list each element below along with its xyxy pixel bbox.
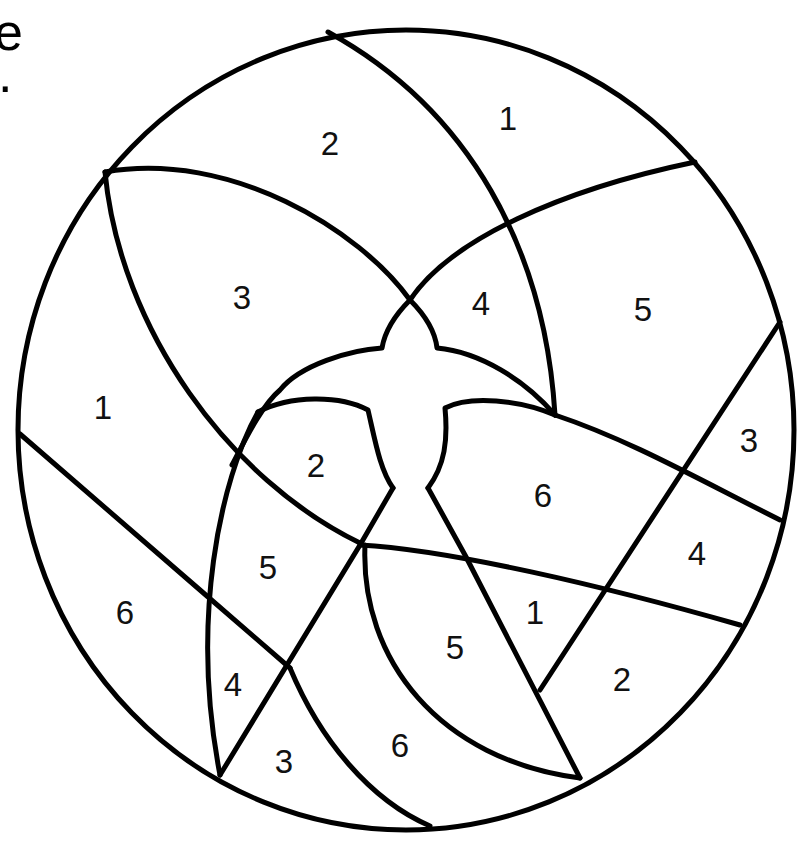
region-number: 3	[275, 745, 293, 778]
region-number: 2	[307, 449, 325, 482]
region-number: 1	[526, 596, 544, 629]
arc-upper-right	[410, 162, 695, 300]
band-lower	[360, 545, 740, 625]
diagonal-right	[540, 322, 780, 690]
dove-head	[232, 300, 410, 465]
region-number: 5	[446, 631, 464, 664]
region-number: 5	[259, 551, 277, 584]
arc-top-right	[328, 32, 555, 415]
outer-circle	[18, 30, 794, 830]
region-number: 3	[233, 281, 251, 314]
region-number: 4	[472, 287, 490, 320]
region-number: 2	[321, 127, 339, 160]
region-number: 4	[224, 668, 242, 701]
region-number: 3	[740, 424, 758, 457]
arc-upper-left	[105, 168, 410, 300]
region-number: 2	[613, 663, 631, 696]
diagonal-left	[20, 434, 290, 668]
region-number: 6	[116, 596, 134, 629]
region-number: 4	[688, 537, 706, 570]
region-number: 6	[534, 479, 552, 512]
dove-wing-right-inner	[428, 401, 555, 488]
dove-stained-glass-drawing	[0, 0, 807, 843]
dove-wing-left-inner	[258, 399, 393, 488]
region-number: 1	[94, 391, 112, 424]
region-number: 1	[499, 102, 517, 135]
coloring-page: e . 1 2	[0, 0, 807, 843]
region-number: 5	[634, 293, 652, 326]
leaf-left-curve	[105, 172, 360, 543]
region-number: 6	[391, 729, 409, 762]
